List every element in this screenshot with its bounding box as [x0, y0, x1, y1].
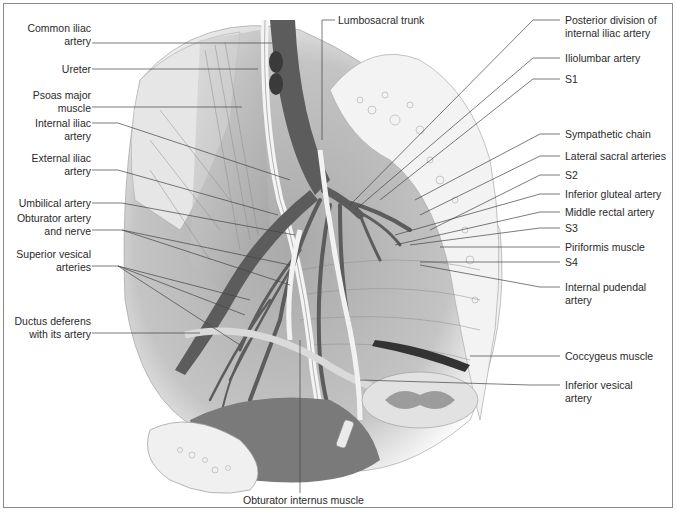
- label-inferior-vesical-artery: Inferior vesicalartery: [565, 379, 633, 404]
- label-inferior-gluteal-artery: Inferior gluteal artery: [565, 188, 661, 201]
- label-superior-vesical-arteries: Superior vesicalarteries: [16, 248, 91, 273]
- label-umbilical-artery: Umbilical artery: [19, 197, 91, 210]
- label-s4: S4: [565, 256, 578, 269]
- label-obturator-artery-and-nerve: Obturator arteryand nerve: [17, 212, 91, 237]
- label-common-iliac-artery: Common iliacartery: [27, 22, 91, 47]
- label-s2: S2: [565, 169, 578, 182]
- label-lateral-sacral-arteries: Lateral sacral arteries: [565, 150, 666, 163]
- label-ductus-deferens: Ductus deferenswith its artery: [15, 315, 91, 340]
- label-external-iliac-artery: External iliacartery: [31, 152, 91, 177]
- label-posterior-division: Posterior division ofinternal iliac arte…: [565, 14, 657, 39]
- label-s1: S1: [565, 73, 578, 86]
- label-lumbosacral-trunk: Lumbosacral trunk: [338, 14, 424, 27]
- label-middle-rectal-artery: Middle rectal artery: [565, 206, 654, 219]
- label-internal-iliac-artery: Internal iliacartery: [35, 117, 91, 142]
- label-piriformis-muscle: Piriformis muscle: [565, 241, 645, 254]
- label-coccygeus-muscle: Coccygeus muscle: [565, 350, 653, 363]
- label-ureter: Ureter: [62, 63, 91, 76]
- label-iliolumbar-artery: Iliolumbar artery: [565, 52, 640, 65]
- label-obturator-internus-muscle: Obturator internus muscle: [243, 494, 364, 507]
- label-sympathetic-chain: Sympathetic chain: [565, 128, 651, 141]
- label-psoas-major-muscle: Psoas majormuscle: [33, 89, 91, 114]
- label-s3: S3: [565, 222, 578, 235]
- label-internal-pudendal-artery: Internal pudendalartery: [565, 281, 646, 306]
